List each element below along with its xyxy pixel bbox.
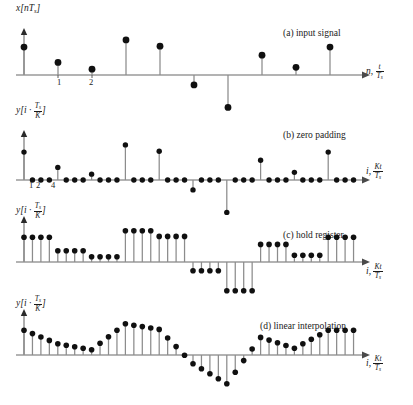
interpolation-figure: x[nTs] (a) input signal n, t Ts 1 2 y[i … xyxy=(0,0,413,405)
x-axis-arrowhead xyxy=(362,71,370,78)
stem-marker xyxy=(326,149,331,154)
stem-marker xyxy=(351,177,356,182)
stem-marker xyxy=(173,234,179,240)
panel-b-tick-2: 2 xyxy=(36,180,40,190)
stem-marker xyxy=(173,177,178,182)
stem-marker xyxy=(292,345,298,351)
stem-marker xyxy=(241,177,246,182)
panel-b-zero-padding: y[i · Ts K ] (b) zero padding i, Kt Ts 1… xyxy=(0,100,413,203)
stem-marker xyxy=(199,177,204,182)
stem-marker xyxy=(21,234,27,240)
stem-marker xyxy=(123,37,130,44)
stem-marker xyxy=(156,234,162,240)
stem-marker xyxy=(140,177,145,182)
stem-marker xyxy=(241,358,247,364)
stem-marker xyxy=(55,59,62,66)
stem-marker xyxy=(266,337,272,343)
stem-marker xyxy=(283,343,289,349)
stem-marker xyxy=(89,347,95,353)
stem-marker xyxy=(327,44,334,51)
stem-marker xyxy=(351,234,357,240)
panel-c-plot xyxy=(0,200,413,303)
panel-a-input-signal: x[nTs] (a) input signal n, t Ts 1 2 xyxy=(0,0,413,103)
stem-marker xyxy=(47,338,53,344)
stem-marker xyxy=(131,322,137,328)
stem-marker xyxy=(342,177,347,182)
stem-marker xyxy=(207,371,213,377)
stem-marker xyxy=(157,43,164,50)
stem-marker xyxy=(114,177,119,182)
stem-marker xyxy=(199,366,205,372)
stem-marker xyxy=(317,252,323,258)
stem-marker xyxy=(275,340,281,346)
stem-marker xyxy=(300,177,305,182)
stem-marker xyxy=(114,328,120,334)
stem-marker xyxy=(165,234,171,240)
stem-marker xyxy=(266,242,272,248)
stem-marker xyxy=(38,334,44,340)
stem-marker xyxy=(89,66,96,73)
stem-marker xyxy=(140,228,146,234)
stem-marker xyxy=(89,254,95,260)
stem-marker xyxy=(325,327,331,333)
stem-marker xyxy=(258,158,263,163)
stem-marker xyxy=(317,332,323,338)
stem-marker xyxy=(72,177,77,182)
stem-marker xyxy=(199,268,205,274)
stem-marker xyxy=(63,248,69,254)
panel-c-hold-register: y[i · Ts K ] (c) hold register i, Kt Ts xyxy=(0,200,413,303)
y-axis-arrowhead xyxy=(21,216,27,223)
x-axis-arrowhead xyxy=(362,351,370,358)
stem-marker xyxy=(38,234,44,240)
stem-marker xyxy=(148,228,154,234)
stem-marker xyxy=(334,327,340,333)
x-axis-arrowhead xyxy=(362,258,370,265)
stem-marker xyxy=(275,242,281,248)
panel-b-tick-1: 1 xyxy=(29,180,33,190)
stem-marker xyxy=(283,242,289,248)
stem-marker xyxy=(123,321,129,327)
stem-marker xyxy=(293,64,300,71)
stem-marker xyxy=(165,335,171,341)
stem-marker xyxy=(131,177,136,182)
stem-marker xyxy=(131,228,137,234)
stem-marker xyxy=(300,252,306,258)
stem-marker xyxy=(207,268,213,274)
stem-marker xyxy=(182,352,188,358)
stem-marker xyxy=(21,149,26,154)
stem-marker xyxy=(309,252,315,258)
stem-marker xyxy=(55,341,61,347)
stem-marker xyxy=(165,177,170,182)
stem-marker xyxy=(63,343,69,349)
panel-d-linear-interpolation: y[i · Ts K ] (d) linear interpolation i,… xyxy=(0,293,413,405)
stem-marker xyxy=(216,268,222,274)
stem-marker xyxy=(47,234,53,240)
stem-marker xyxy=(97,177,102,182)
y-axis-arrowhead xyxy=(21,309,27,316)
y-axis-arrowhead xyxy=(21,130,27,137)
stem-marker xyxy=(182,177,187,182)
panel-b-plot xyxy=(0,100,413,203)
stem-marker xyxy=(190,268,196,274)
stem-marker xyxy=(233,177,238,182)
stem-marker xyxy=(325,234,331,240)
stem-marker xyxy=(232,369,238,375)
stem-marker xyxy=(334,234,340,240)
stem-marker xyxy=(309,336,315,342)
stem-marker xyxy=(216,376,222,382)
stem-marker xyxy=(249,346,255,352)
stem-marker xyxy=(292,252,298,258)
stem-marker xyxy=(207,177,212,182)
stem-marker xyxy=(292,170,297,175)
x-axis-arrowhead xyxy=(362,176,370,183)
stem-marker xyxy=(283,177,288,182)
stem-marker xyxy=(190,187,195,192)
stem-marker xyxy=(140,324,146,330)
stem-marker xyxy=(106,254,112,260)
stem-marker xyxy=(80,177,85,182)
stem-marker xyxy=(300,341,306,347)
stem-marker xyxy=(182,234,188,240)
stem-marker xyxy=(259,52,266,59)
stem-marker xyxy=(55,248,61,254)
stem-marker xyxy=(190,361,196,367)
